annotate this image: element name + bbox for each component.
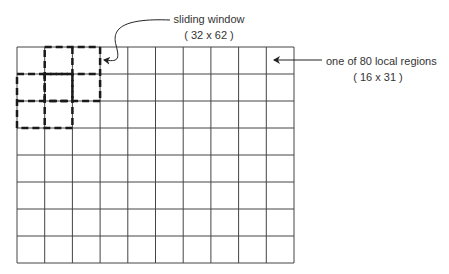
sliding-window-title: sliding window [172,13,246,26]
sliding-window-annotation: sliding window ( 32 x 62 ) [172,13,246,42]
sliding-window-arrow-icon [104,20,170,61]
sliding-window-size: ( 32 x 62 ) [172,29,246,42]
local-regions-grid [17,47,294,263]
local-region-title: one of 80 local regions [326,55,430,68]
local-region-size: ( 16 x 31 ) [326,71,430,84]
sliding-windows [17,47,100,128]
local-region-annotation: one of 80 local regions ( 16 x 31 ) [326,55,430,84]
